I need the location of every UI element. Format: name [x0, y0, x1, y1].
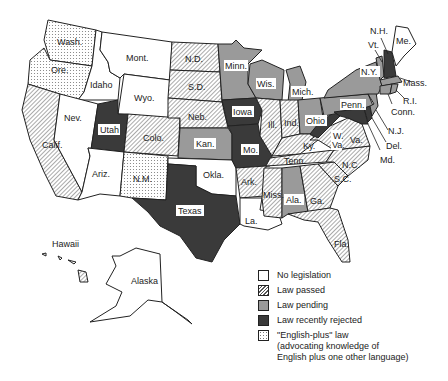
label-ill: Ill. — [268, 120, 277, 130]
label-utah: Utah — [100, 125, 119, 135]
label-colo: Colo. — [143, 133, 164, 143]
state-hawaii-islands — [42, 253, 76, 264]
label-iowa: Iowa — [233, 107, 252, 117]
label-nm: N.M. — [133, 174, 152, 184]
label-idaho: Idaho — [90, 80, 113, 90]
legend-item-law-rejected: Law recently rejected — [258, 315, 448, 329]
label-ga: Ga. — [310, 196, 325, 206]
label-nd: N.D. — [185, 54, 203, 64]
label-ind: Ind. — [284, 118, 299, 128]
label-ri: R.I. — [403, 96, 417, 106]
label-ark: Ark. — [241, 177, 257, 187]
swatch-hatched-icon — [258, 285, 269, 296]
swatch-no-legislation-icon — [258, 270, 269, 281]
label-nc: N.C. — [342, 160, 360, 170]
label-nev: Nev. — [64, 113, 82, 123]
legend-label: Law passed — [277, 285, 325, 296]
legend-item-no-legislation: No legislation — [258, 270, 448, 284]
label-la: La. — [245, 216, 258, 226]
label-nj: N.J. — [388, 126, 404, 136]
legend-item-law-pending: Law pending — [258, 300, 448, 314]
label-del: Del. — [386, 141, 402, 151]
state-hawaii — [78, 270, 88, 282]
legend-label: Law recently rejected — [277, 315, 362, 326]
label-sd: S.D. — [188, 82, 206, 92]
label-sc: S.C. — [334, 174, 352, 184]
label-ny: N.Y. — [361, 67, 377, 77]
label-ky: Ky. — [303, 141, 315, 151]
label-ore: Ore. — [51, 65, 69, 75]
label-texas: Texas — [178, 206, 202, 216]
label-alaska: Alaska — [131, 276, 158, 286]
legend-label: No legislation — [277, 270, 331, 281]
label-wash: Wash. — [57, 37, 82, 47]
label-okla: Okla. — [203, 170, 224, 180]
label-mich: Mich. — [292, 87, 314, 97]
label-wyo: Wyo. — [134, 93, 154, 103]
label-ala: Ala. — [286, 195, 302, 205]
label-mass: Mass. — [403, 78, 427, 88]
label-conn: Conn. — [391, 107, 415, 117]
label-penn: Penn. — [341, 100, 365, 110]
map-legend: No legislation Law passed Law pending La… — [258, 270, 448, 364]
label-vt: Vt. — [368, 40, 379, 50]
state-alaska — [90, 248, 192, 324]
legend-item-law-passed: Law passed — [258, 285, 448, 299]
label-mont: Mont. — [126, 53, 149, 63]
label-calif: Calif. — [42, 140, 63, 150]
label-md: Md. — [380, 155, 395, 165]
swatch-dark-icon — [258, 315, 269, 326]
label-fla: Fla. — [334, 239, 349, 249]
label-miss: Miss. — [263, 190, 284, 200]
label-tenn: Tenn. — [284, 156, 306, 166]
label-wis: Wis. — [257, 79, 275, 89]
label-neb: Neb. — [188, 112, 207, 122]
label-ohio: Ohio — [306, 116, 325, 126]
label-mo: Mo. — [243, 145, 258, 155]
label-ariz: Ariz. — [92, 169, 110, 179]
legend-label: "English-plus" law (advocating knowledge… — [277, 330, 409, 363]
label-va: Va. — [350, 135, 363, 145]
legend-item-english-plus: "English-plus" law (advocating knowledge… — [258, 330, 448, 363]
label-wva-2: Va. — [332, 140, 345, 150]
label-kan: Kan. — [196, 139, 215, 149]
state-fla — [288, 208, 350, 262]
label-me: Me. — [396, 36, 411, 46]
swatch-dotted-icon — [258, 330, 269, 341]
state-ri — [390, 84, 398, 94]
label-nh: N.H. — [370, 26, 388, 36]
state-me — [392, 26, 416, 66]
label-hawaii: Hawaii — [52, 239, 79, 249]
legend-label: Law pending — [277, 300, 328, 311]
label-minn: Minn. — [225, 61, 247, 71]
swatch-gray-icon — [258, 300, 269, 311]
